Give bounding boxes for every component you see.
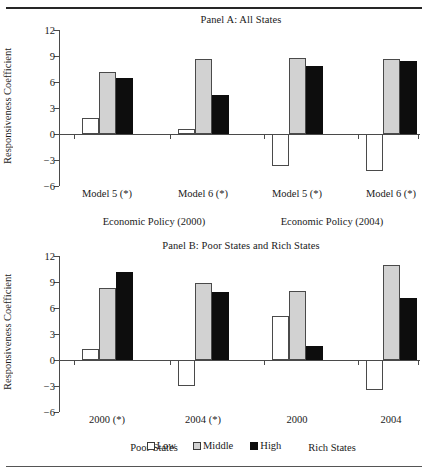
bar-low[interactable] [82, 118, 99, 134]
x-tick-label: 2004 [331, 414, 428, 425]
y-tick-label: 0 [50, 355, 55, 366]
legend: Low Middle High [0, 440, 428, 451]
bar-group: Model 5 (*) [82, 30, 133, 186]
top-rule [6, 7, 422, 9]
x-tick-mark [418, 134, 419, 139]
bar-group: 2004 (*) [178, 256, 229, 412]
bar-group: Model 5 (*) [272, 30, 323, 186]
bar-middle[interactable] [289, 58, 306, 134]
y-tick-label: −3 [44, 155, 55, 166]
bar-low[interactable] [366, 360, 383, 390]
panel-a-plot-area: 129630−3−6 Model 5 (*)Model 6 (*)Model 5… [59, 30, 420, 186]
legend-label-middle: Middle [203, 440, 233, 451]
y-tick-label: 6 [50, 303, 55, 314]
legend-item-middle: Middle [193, 440, 233, 451]
y-tick-label: 12 [45, 25, 56, 36]
x-tick-label: Model 6 (*) [331, 188, 428, 199]
x-tick-mark [264, 134, 265, 139]
bottom-rule [6, 466, 422, 467]
bar-high[interactable] [400, 298, 417, 360]
bar-low[interactable] [82, 349, 99, 360]
bar-high[interactable] [116, 78, 133, 134]
bar-high[interactable] [306, 346, 323, 360]
x-tick-mark [170, 134, 171, 139]
y-tick-label: 0 [50, 129, 55, 140]
bar-high[interactable] [212, 95, 229, 134]
panel-b-title: Panel B: Poor States and Rich States [60, 240, 422, 251]
bar-group: 2000 [272, 256, 323, 412]
panel-a-y-axis-label: Responsiveness Coefficient [2, 28, 18, 184]
panel-a: Panel A: All States Responsiveness Coeff… [0, 14, 428, 230]
y-tick-label: 12 [45, 251, 56, 262]
legend-item-low: Low [147, 440, 176, 451]
bar-low[interactable] [272, 316, 289, 360]
y-tick-label: 6 [50, 77, 55, 88]
legend-swatch-middle-icon [193, 442, 201, 450]
bar-middle[interactable] [195, 59, 212, 134]
panel-b-plot-area: 129630−3−6 2000 (*)2004 (*)20002004Poor … [59, 256, 420, 412]
bar-high[interactable] [212, 292, 229, 360]
bar-middle[interactable] [383, 59, 400, 134]
x-tick-mark [418, 360, 419, 365]
y-tick-label: 9 [50, 51, 55, 62]
bar-high[interactable] [116, 272, 133, 360]
bar-middle[interactable] [99, 288, 116, 360]
panel-b: Panel B: Poor States and Rich States Res… [0, 240, 428, 436]
x-tick-mark [74, 134, 75, 139]
bar-low[interactable] [178, 129, 195, 134]
y-tick-label: 9 [50, 277, 55, 288]
figure: Panel A: All States Responsiveness Coeff… [0, 0, 428, 473]
legend-label-low: Low [157, 440, 176, 451]
y-tick-label: 3 [50, 329, 55, 340]
bar-high[interactable] [400, 61, 417, 134]
panel-b-y-axis-label: Responsiveness Coefficient [2, 254, 18, 410]
panel-a-title: Panel A: All States [60, 14, 422, 25]
x-tick-mark [74, 360, 75, 365]
bar-group: 2000 (*) [82, 256, 133, 412]
panel-b-y-axis [59, 256, 60, 412]
bar-low[interactable] [178, 360, 195, 386]
x-tick-mark [358, 360, 359, 365]
bar-high[interactable] [306, 66, 323, 134]
x-tick-mark [358, 134, 359, 139]
legend-label-high: High [260, 440, 281, 451]
bar-group: Model 6 (*) [366, 30, 417, 186]
bar-middle[interactable] [195, 283, 212, 360]
bar-middle[interactable] [289, 291, 306, 360]
bar-low[interactable] [272, 134, 289, 166]
panel-a-y-axis [59, 30, 60, 186]
y-tick-label: −3 [44, 381, 55, 392]
legend-item-high: High [250, 440, 281, 451]
y-tick-label: 3 [50, 103, 55, 114]
legend-swatch-high-icon [250, 442, 258, 450]
x-axis-group-label: Economic Policy (2004) [247, 216, 417, 227]
x-tick-mark [170, 360, 171, 365]
bar-group: 2004 [366, 256, 417, 412]
bar-middle[interactable] [383, 265, 400, 360]
bar-group: Model 6 (*) [178, 30, 229, 186]
x-axis-group-label: Economic Policy (2000) [69, 216, 239, 227]
bar-low[interactable] [366, 134, 383, 171]
bar-middle[interactable] [99, 72, 116, 134]
legend-swatch-low-icon [147, 442, 155, 450]
x-tick-mark [264, 360, 265, 365]
